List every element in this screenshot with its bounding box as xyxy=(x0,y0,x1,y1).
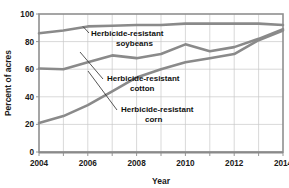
y-tick-label: 0 xyxy=(29,148,34,157)
x-tick-label: 2004 xyxy=(30,159,49,168)
series-label-cotton-line2: cotton xyxy=(130,84,155,93)
series-label-soybeans-line1: Herbicide-resistant xyxy=(91,29,164,38)
x-tick-label: 2008 xyxy=(127,159,146,168)
series-label-soybeans-line2: soybeans xyxy=(116,39,153,48)
series-label-cotton-line1: Herbicide-resistant xyxy=(107,74,180,83)
x-tick-label: 2010 xyxy=(176,159,195,168)
y-axis-title: Percent of acres xyxy=(3,50,13,116)
x-axis-title: Year xyxy=(152,176,171,186)
x-tick-label: 2012 xyxy=(225,159,244,168)
series-label-corn-line1: Herbicide-resistant xyxy=(121,105,194,114)
y-axis-tick-labels: 020406080100 xyxy=(20,10,34,157)
x-tick-label: 2006 xyxy=(79,159,98,168)
line-chart: 020406080100 200420062008201020122014 He… xyxy=(0,0,289,188)
y-tick-label: 20 xyxy=(25,120,35,129)
y-tick-label: 40 xyxy=(25,93,35,102)
chart-container: 020406080100 200420062008201020122014 He… xyxy=(0,0,289,188)
x-tick-label: 2014 xyxy=(274,159,289,168)
y-tick-label: 80 xyxy=(25,38,35,47)
y-tick-label: 100 xyxy=(20,10,34,19)
series-label-corn-line2: corn xyxy=(145,115,162,124)
x-axis-tick-labels: 200420062008201020122014 xyxy=(30,159,289,168)
y-tick-label: 60 xyxy=(25,65,35,74)
